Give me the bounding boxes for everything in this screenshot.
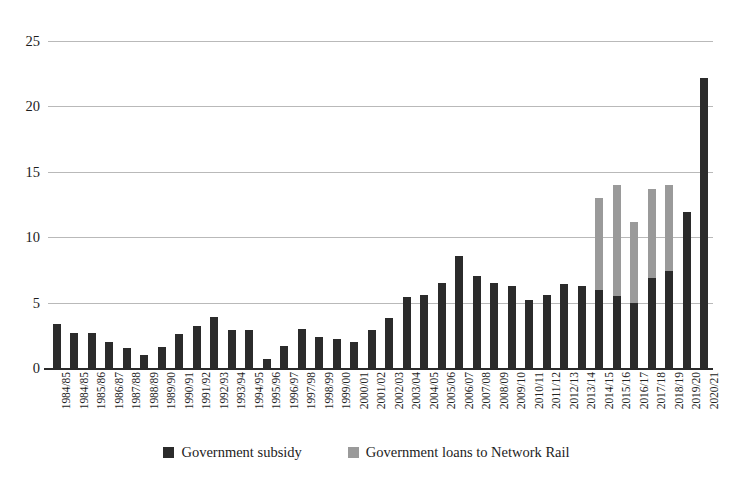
x-tick-label: 1989/90 bbox=[166, 372, 178, 409]
x-tick-label: 1999/00 bbox=[341, 372, 353, 409]
x-tick-label: 1991/92 bbox=[201, 372, 213, 409]
legend-swatch-subsidy bbox=[163, 447, 174, 458]
x-tick-label: 2014/15 bbox=[604, 372, 616, 409]
bar bbox=[193, 41, 201, 368]
bar bbox=[648, 41, 656, 368]
x-tick-label: 1995/96 bbox=[271, 372, 283, 409]
legend-item-loans: Government loans to Network Rail bbox=[348, 445, 570, 460]
bar bbox=[508, 41, 516, 368]
bar bbox=[70, 41, 78, 368]
bar bbox=[420, 41, 428, 368]
x-tick-label: 2012/13 bbox=[569, 372, 581, 409]
x-tick-label: 2016/17 bbox=[639, 372, 651, 409]
x-tick-label: 2006/07 bbox=[464, 372, 476, 409]
bar-segment-subsidy bbox=[508, 286, 516, 368]
bar-segment-subsidy bbox=[403, 297, 411, 368]
bar-segment-subsidy bbox=[158, 347, 166, 368]
x-tick-label: 1988/89 bbox=[149, 372, 161, 409]
y-tick-label-0: 0 bbox=[6, 361, 40, 376]
bar-segment-subsidy bbox=[193, 326, 201, 368]
bar bbox=[630, 41, 638, 368]
bar-segment-subsidy bbox=[298, 329, 306, 368]
bar bbox=[543, 41, 551, 368]
bar-segment-subsidy bbox=[280, 346, 288, 368]
chart-root: 0510152025 1984/851984/851985/861986/871… bbox=[0, 0, 733, 486]
x-tick-label: 1984/85 bbox=[79, 372, 91, 409]
bar-segment-subsidy bbox=[245, 330, 253, 368]
plot-area bbox=[48, 41, 713, 368]
legend-label-loans: Government loans to Network Rail bbox=[366, 445, 570, 460]
x-tick-label: 1984/85 bbox=[61, 372, 73, 409]
bar-segment-subsidy bbox=[630, 303, 638, 368]
x-tick-label: 2005/06 bbox=[446, 372, 458, 409]
x-tick-label: 1992/93 bbox=[219, 372, 231, 409]
bar-segment-loans bbox=[648, 189, 656, 278]
y-tick-label-20: 20 bbox=[6, 99, 40, 114]
bar bbox=[525, 41, 533, 368]
x-tick-label: 1985/86 bbox=[96, 372, 108, 409]
x-tick-label: 2008/09 bbox=[499, 372, 511, 409]
x-tick-label: 2007/08 bbox=[481, 372, 493, 409]
bar bbox=[455, 41, 463, 368]
x-tick-label: 2019/20 bbox=[691, 372, 703, 409]
bar bbox=[263, 41, 271, 368]
bar bbox=[158, 41, 166, 368]
x-tick-label: 1994/95 bbox=[254, 372, 266, 409]
x-tick-label: 2004/05 bbox=[429, 372, 441, 409]
bar-segment-loans bbox=[630, 222, 638, 303]
bar bbox=[123, 41, 131, 368]
bar-segment-subsidy bbox=[123, 348, 131, 368]
bar bbox=[105, 41, 113, 368]
y-tick-label-10: 10 bbox=[6, 230, 40, 245]
bar-segment-subsidy bbox=[105, 342, 113, 368]
y-tick-label-5: 5 bbox=[6, 295, 40, 310]
bar-segment-subsidy bbox=[333, 339, 341, 368]
x-tick-label: 1993/94 bbox=[236, 372, 248, 409]
bar bbox=[578, 41, 586, 368]
x-tick-label: 2010/11 bbox=[534, 372, 546, 409]
y-tick-label-25: 25 bbox=[6, 34, 40, 49]
bar-segment-subsidy bbox=[350, 342, 358, 368]
x-axis-ticks: 1984/851984/851985/861986/871987/881988/… bbox=[48, 372, 713, 438]
x-tick-label: 1986/87 bbox=[114, 372, 126, 409]
bar-segment-subsidy bbox=[228, 330, 236, 368]
bar-segment-subsidy bbox=[175, 334, 183, 368]
x-tick-label: 2013/14 bbox=[586, 372, 598, 409]
bar-segment-subsidy bbox=[210, 317, 218, 368]
x-tick-label: 1987/88 bbox=[131, 372, 143, 409]
bar bbox=[438, 41, 446, 368]
bar bbox=[245, 41, 253, 368]
bar bbox=[140, 41, 148, 368]
x-tick-label: 2009/10 bbox=[516, 372, 528, 409]
bar bbox=[210, 41, 218, 368]
bar-segment-subsidy bbox=[263, 359, 271, 368]
x-tick-label: 2020/21 bbox=[709, 372, 721, 409]
x-tick-label: 1990/91 bbox=[184, 372, 196, 409]
bar-segment-loans bbox=[613, 185, 621, 296]
x-axis-line bbox=[44, 368, 713, 370]
bar bbox=[613, 41, 621, 368]
bar bbox=[683, 41, 691, 368]
bar-segment-subsidy bbox=[613, 296, 621, 368]
bar-segment-subsidy bbox=[140, 355, 148, 368]
bar-segment-loans bbox=[595, 198, 603, 290]
bar-segment-subsidy bbox=[543, 295, 551, 368]
bar-segment-subsidy bbox=[53, 324, 61, 368]
x-tick-label: 2015/16 bbox=[621, 372, 633, 409]
bar bbox=[473, 41, 481, 368]
bar-segment-subsidy bbox=[490, 283, 498, 368]
bar bbox=[228, 41, 236, 368]
x-tick-label: 1998/99 bbox=[324, 372, 336, 409]
legend-swatch-loans bbox=[348, 447, 359, 458]
bar bbox=[350, 41, 358, 368]
bar bbox=[88, 41, 96, 368]
bar-segment-subsidy bbox=[385, 318, 393, 368]
bar-segment-subsidy bbox=[578, 286, 586, 368]
bar-segment-subsidy bbox=[438, 283, 446, 368]
chart-legend: Government subsidy Government loans to N… bbox=[0, 445, 733, 460]
bar bbox=[333, 41, 341, 368]
bar-segment-subsidy bbox=[683, 212, 691, 368]
x-tick-label: 2002/03 bbox=[394, 372, 406, 409]
legend-item-subsidy: Government subsidy bbox=[163, 445, 301, 460]
x-tick-label: 2011/12 bbox=[551, 372, 563, 409]
